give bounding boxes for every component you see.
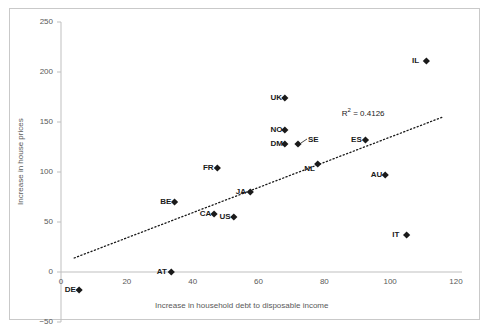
scatter-chart-figure: 250200150100500−50020406080100120 DEATBE… [0,0,489,329]
data-point-marker [76,286,83,293]
data-point-label: US [219,213,230,221]
data-point-label: BE [160,198,171,206]
leader-line [301,139,307,143]
data-point-label: FR [203,164,214,172]
data-point [210,210,217,217]
data-point-label: SE [308,136,319,144]
y-tick-label: 250 [23,18,53,26]
data-point-label: CA [200,210,212,218]
trendline-group [74,117,443,258]
data-point [382,171,389,178]
data-point-marker [403,231,410,238]
data-point [76,286,83,293]
data-point-marker [294,140,301,147]
data-point [403,231,410,238]
data-point-marker [362,136,369,143]
y-tick-label: 150 [23,118,53,126]
data-point-label: NO [270,126,282,134]
data-point-label: IT [392,231,399,239]
data-point-marker [314,160,321,167]
trendline [74,117,443,258]
data-point-label: AU [371,171,383,179]
x-tick-label: 20 [112,278,142,286]
data-point [281,94,288,101]
data-point-label: AT [157,268,167,276]
x-axis-title: Increase in household debt to disposable… [155,302,328,310]
y-tick-label: −50 [23,318,53,326]
data-point [423,57,430,64]
x-tick-label: 120 [441,278,471,286]
data-point [362,136,369,143]
data-point-label: ES [351,136,362,144]
data-point-marker [214,164,221,171]
data-point-label: NL [304,165,315,173]
y-tick-label: 50 [23,218,53,226]
data-point [171,198,178,205]
y-axis-title: Increase in house prices [17,118,25,205]
data-point [314,160,321,167]
data-point-marker [171,198,178,205]
x-tick-label: 100 [375,278,405,286]
data-point-marker [210,210,217,217]
data-point-marker [168,268,175,275]
x-tick-label: 60 [244,278,274,286]
data-point-label: DE [65,286,76,294]
y-tick-label: 100 [23,168,53,176]
data-point [214,164,221,171]
data-point [294,140,301,147]
r-squared-annotation: R2 = 0.4126 [342,107,385,118]
data-point-label: UK [270,94,282,102]
data-point-label: IL [412,57,419,65]
data-point-marker [423,57,430,64]
data-point [230,213,237,220]
y-tick-label: 0 [23,268,53,276]
data-point-marker [230,213,237,220]
data-point-label: DM [270,140,282,148]
data-point-marker [382,171,389,178]
data-point-label: JA [236,188,246,196]
x-tick-label: 80 [309,278,339,286]
x-tick-label: 40 [178,278,208,286]
data-point-marker [281,94,288,101]
y-tick-label: 200 [23,68,53,76]
data-point [168,268,175,275]
